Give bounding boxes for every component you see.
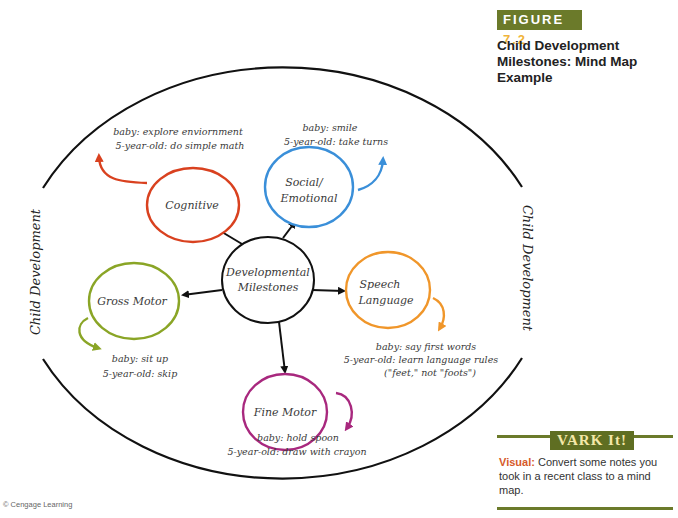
gross-motor-note-baby: baby: sit up xyxy=(112,353,168,364)
vark-body: Visual: Convert some notes you took in a… xyxy=(499,455,673,497)
fine-motor-note-arrow xyxy=(336,393,352,428)
figure-badge: FIGURE 7.2 xyxy=(497,10,582,30)
cognitive-note-five: 5-year-old: do simple math xyxy=(116,140,245,151)
node-social-emotional[interactable]: Social/ Emotional xyxy=(265,147,353,227)
gross-motor-note-five: 5-year-old: skip xyxy=(103,368,177,379)
cognitive-note-baby: baby: explore enviornment xyxy=(113,126,243,137)
node-cognitive[interactable]: Cognitive xyxy=(147,168,239,242)
social-label-line2: Emotional xyxy=(280,192,338,205)
gross-motor-label: Gross Motor xyxy=(97,295,167,308)
fine-motor-note-baby: baby: hold spoon xyxy=(257,432,339,443)
social-label-line1: Social/ xyxy=(285,176,324,189)
speech-label-line1: Speech xyxy=(360,278,401,291)
social-note-baby: baby: smile xyxy=(303,122,358,133)
figure-badge-label: FIGURE xyxy=(503,12,564,27)
fine-motor-label: Fine Motor xyxy=(253,406,317,419)
center-node[interactable]: Developmental Milestones xyxy=(222,237,314,323)
cognitive-note-arrow xyxy=(99,157,147,183)
fine-motor-note-five: 5-year-old: draw with crayon xyxy=(227,446,366,457)
vark-rule-bottom xyxy=(497,507,673,510)
speech-note-arrow xyxy=(433,298,444,328)
center-label-line1: Developmental xyxy=(225,266,310,279)
center-label-line2: Milestones xyxy=(237,281,299,294)
side-label-left: Child Development xyxy=(28,208,43,335)
cognitive-label: Cognitive xyxy=(165,199,219,212)
figure-title: Child Development Milestones: Mind Map E… xyxy=(497,38,667,86)
speech-label-line2: Language xyxy=(357,294,414,307)
side-label-right: Child Development xyxy=(520,205,535,332)
vark-badge: VARK It! xyxy=(550,431,634,450)
node-speech-language[interactable]: Speech Language xyxy=(346,252,430,328)
social-note-five: 5-year-old: take turns xyxy=(284,136,388,147)
gross-motor-note-arrow xyxy=(79,318,98,348)
credit-line: © Cengage Learning xyxy=(3,500,72,509)
speech-note-extra: ("feet," not "foots") xyxy=(384,367,476,378)
speech-note-baby: baby: say first words xyxy=(376,341,476,352)
node-gross-motor[interactable]: Gross Motor xyxy=(89,263,179,339)
vark-keyword: Visual: xyxy=(499,456,535,468)
speech-note-five: 5-year-old: learn language rules xyxy=(344,354,498,365)
social-note-arrow xyxy=(358,160,383,190)
vark-box: VARK It! Visual: Convert some notes you … xyxy=(497,431,673,509)
